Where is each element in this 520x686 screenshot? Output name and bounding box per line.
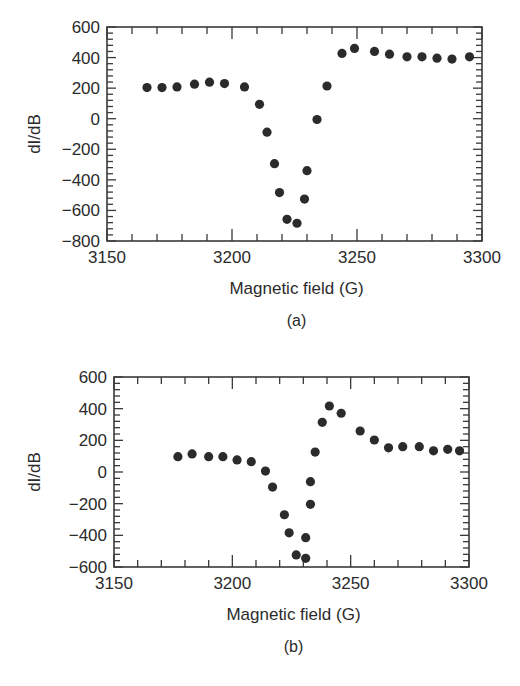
data-point: [429, 446, 438, 455]
data-point: [350, 44, 359, 53]
y-tick-label: 200: [72, 79, 100, 98]
data-point: [356, 426, 365, 435]
data-point: [325, 401, 334, 410]
data-point: [240, 82, 249, 91]
y-tick-label: 0: [91, 110, 100, 129]
figure-caption: (a): [287, 312, 307, 329]
y-tick-label: −400: [62, 171, 100, 190]
data-point: [337, 49, 346, 58]
plot-frame: [114, 377, 469, 567]
data-point: [443, 445, 452, 454]
x-tick-label: 3300: [463, 248, 501, 267]
data-point: [220, 79, 229, 88]
data-point: [285, 528, 294, 537]
y-tick-label: 600: [79, 368, 107, 387]
x-tick-label: 3150: [95, 574, 133, 593]
figure-b: −600−400−20002004006003150320032503300Ma…: [0, 330, 520, 686]
data-point: [218, 452, 227, 461]
data-point: [190, 80, 199, 89]
data-point: [232, 455, 241, 464]
data-point: [247, 457, 256, 466]
x-tick-label: 3300: [450, 574, 488, 593]
y-tick-label: 400: [79, 400, 107, 419]
data-point: [261, 466, 270, 475]
x-tick-label: 3200: [213, 574, 251, 593]
data-point: [318, 418, 327, 427]
data-point: [455, 446, 464, 455]
data-point: [262, 128, 271, 137]
data-point: [204, 452, 213, 461]
data-point: [282, 215, 291, 224]
data-point: [157, 83, 166, 92]
data-point: [173, 452, 182, 461]
data-point: [398, 442, 407, 451]
data-point: [142, 83, 151, 92]
data-point: [370, 47, 379, 56]
chart-a: −800−600−400−200020040060031503200325033…: [0, 0, 520, 330]
y-tick-label: 200: [79, 431, 107, 450]
data-point: [255, 100, 264, 109]
data-point: [402, 52, 411, 61]
data-point: [417, 52, 426, 61]
data-point: [384, 443, 393, 452]
x-tick-label: 3200: [213, 248, 251, 267]
y-tick-label: −400: [69, 526, 107, 545]
y-tick-label: 400: [72, 49, 100, 68]
data-point: [280, 510, 289, 519]
data-point: [311, 447, 320, 456]
data-point: [301, 533, 310, 542]
data-point: [306, 500, 315, 509]
chart-b: −600−400−20002004006003150320032503300Ma…: [0, 330, 520, 686]
data-point: [447, 55, 456, 64]
y-tick-label: −200: [69, 495, 107, 514]
data-point: [300, 195, 309, 204]
data-point: [188, 449, 197, 458]
data-point: [270, 159, 279, 168]
x-axis-label: Magnetic field (G): [229, 279, 363, 298]
x-axis-label: Magnetic field (G): [226, 605, 360, 624]
data-point: [205, 78, 214, 87]
y-tick-label: 600: [72, 18, 100, 37]
x-tick-label: 3150: [88, 248, 126, 267]
data-point: [292, 550, 301, 559]
data-point: [268, 482, 277, 491]
x-tick-label: 3250: [338, 248, 376, 267]
data-point: [306, 477, 315, 486]
y-axis-label: dI/dB: [25, 452, 44, 492]
data-point: [302, 166, 311, 175]
data-point: [370, 435, 379, 444]
data-point: [465, 52, 474, 61]
figure-caption: (b): [284, 638, 304, 655]
data-point: [322, 81, 331, 90]
data-point: [275, 188, 284, 197]
x-tick-label: 3250: [332, 574, 370, 593]
y-axis-label: dI/dB: [25, 114, 44, 154]
data-point: [432, 54, 441, 63]
data-point: [385, 50, 394, 59]
data-point: [415, 442, 424, 451]
data-point: [312, 115, 321, 124]
y-tick-label: −600: [62, 201, 100, 220]
data-point: [301, 554, 310, 563]
data-point: [292, 219, 301, 228]
figure-a: −800−600−400−200020040060031503200325033…: [0, 0, 520, 330]
y-tick-label: −200: [62, 140, 100, 159]
data-point: [337, 409, 346, 418]
y-tick-label: 0: [98, 463, 107, 482]
data-point: [172, 82, 181, 91]
